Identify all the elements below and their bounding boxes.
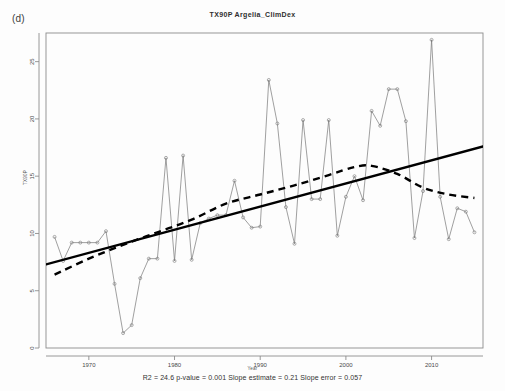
- y-axis-tick-label: 10: [29, 229, 35, 236]
- plot-canvas: 051015202519701980199020002010: [0, 0, 505, 391]
- y-axis-tick-label: 25: [29, 58, 35, 65]
- linear-trend-line: [46, 146, 483, 264]
- chart-figure: (d) TX90P Argelia_ClimDex 05101520251970…: [0, 0, 505, 391]
- data-series-line: [55, 40, 475, 333]
- y-axis-tick-label: 0: [29, 346, 35, 350]
- screenshot-root: (d) TX90P Argelia_ClimDex 05101520251970…: [0, 0, 505, 391]
- x-axis-label: Year: [0, 366, 505, 371]
- plot-frame: [46, 33, 483, 348]
- y-axis-label: TX90P: [23, 158, 28, 198]
- y-axis-tick-label: 20: [29, 115, 35, 122]
- chart-caption: R2 = 24.6 p-value = 0.001 Slope estimate…: [0, 374, 505, 381]
- y-axis-tick-label: 5: [29, 288, 35, 292]
- smoothed-trend-line: [55, 165, 475, 274]
- series-layer: [46, 38, 483, 334]
- y-axis-tick-label: 15: [29, 172, 35, 179]
